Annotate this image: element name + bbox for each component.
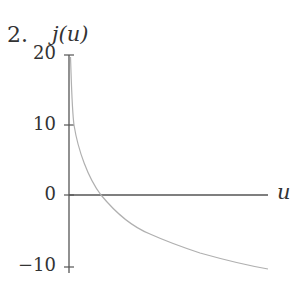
- j-curve: [71, 57, 269, 269]
- chart-plot: [0, 0, 298, 289]
